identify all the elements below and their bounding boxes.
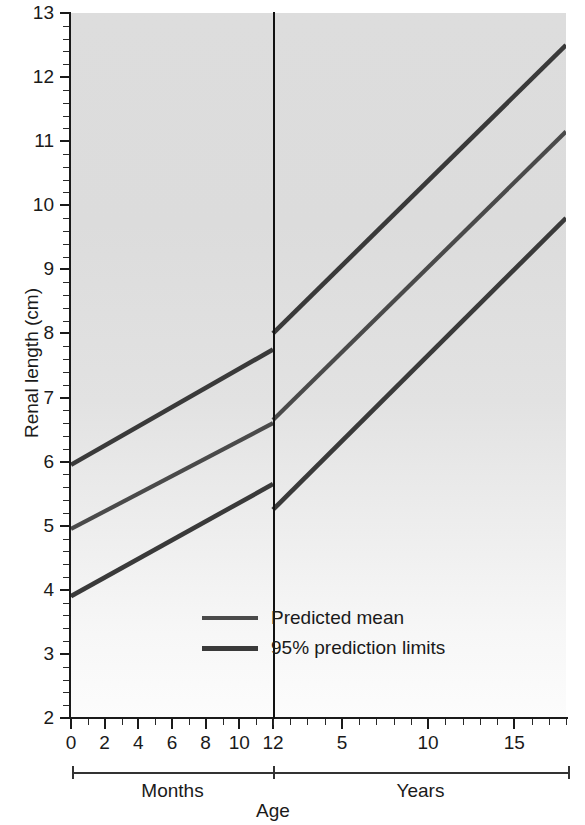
x-tick-minor [532,719,533,725]
y-tick-minor [63,218,69,219]
x-tick-minor [155,719,156,725]
y-tick-minor [63,103,69,104]
y-tick-label: 2 [14,708,54,727]
x-tick-minor [223,719,224,725]
y-tick-minor [63,410,69,411]
bracket-cap [72,766,74,779]
y-tick-label: 12 [14,67,54,86]
x-tick-minor [88,719,89,725]
x-tick-major [70,719,72,729]
y-tick-minor [63,308,69,309]
y-tick-minor [63,192,69,193]
x-tick-major [238,719,240,729]
y-tick-minor [63,39,69,40]
y-tick-minor [63,359,69,360]
x-tick-minor [497,719,498,725]
y-tick-major [60,204,69,206]
x-tick-label: 15 [494,733,534,753]
y-tick-minor [63,51,69,52]
y-tick-minor [63,539,69,540]
y-tick-label: 6 [14,452,54,471]
series-line-mean [273,132,566,420]
y-tick-minor [63,257,69,258]
bracket-cap [568,766,570,779]
y-tick-minor [63,577,69,578]
x-tick-minor [549,719,550,725]
y-tick-label: 10 [14,195,54,214]
y-tick-minor [63,295,69,296]
x-tick-minor [307,719,308,725]
legend-label-predicted-mean: Predicted mean [271,608,404,628]
y-tick-minor [63,180,69,181]
y-tick-minor [63,705,69,706]
x-tick-label: 12 [253,733,293,753]
y-tick-minor [63,513,69,514]
y-tick-label: 3 [14,644,54,663]
y-tick-label: 7 [14,388,54,407]
x-tick-minor [566,719,567,725]
renal-length-growth-chart: Renal length (cm) 1312111098765432 02468… [0,0,585,825]
x-tick-minor [394,719,395,725]
y-tick-minor [63,487,69,488]
series-line-upper-limit [273,45,566,333]
x-tick-minor [290,719,291,725]
y-tick-major [60,525,69,527]
x-tick-minor [273,719,274,725]
y-tick-label: 9 [14,259,54,278]
y-tick-minor [63,641,69,642]
y-tick-minor [63,692,69,693]
y-tick-minor [63,423,69,424]
series-line-lower-limit [71,484,273,596]
x-tick-major [427,719,429,729]
y-tick-minor [63,154,69,155]
x-tick-minor [376,719,377,725]
x-axis-title: Age [193,800,353,822]
x-tick-minor [445,719,446,725]
y-tick-label: 5 [14,516,54,535]
x-tick-major [341,719,343,729]
y-tick-label: 8 [14,323,54,342]
panel-group-label: Months [93,780,253,802]
y-tick-minor [63,551,69,552]
panel-group-label: Years [341,780,501,802]
y-tick-label: 13 [14,3,54,22]
y-tick-major [60,589,69,591]
y-tick-major [60,76,69,78]
y-tick-minor [63,474,69,475]
y-tick-major [60,12,69,14]
x-tick-minor [189,719,190,725]
y-tick-major [60,653,69,655]
x-tick-minor [359,719,360,725]
x-tick-label: 10 [408,733,448,753]
y-tick-minor [63,231,69,232]
x-tick-minor [463,719,464,725]
y-tick-minor [63,667,69,668]
y-tick-major [60,397,69,399]
y-tick-minor [63,449,69,450]
bracket-bar [273,772,568,774]
x-axis-line [69,717,568,719]
y-tick-minor [63,436,69,437]
x-tick-minor [256,719,257,725]
x-tick-minor [480,719,481,725]
y-tick-major [60,140,69,142]
x-tick-major [137,719,139,729]
y-tick-minor [63,64,69,65]
y-tick-minor [63,128,69,129]
x-tick-major [205,719,207,729]
y-tick-minor [63,26,69,27]
series-line-mean [71,423,273,529]
y-tick-label: 11 [14,131,54,150]
y-tick-label: 4 [14,580,54,599]
bracket-bar [72,772,273,774]
y-tick-minor [63,90,69,91]
x-tick-minor [122,719,123,725]
legend-swatch-prediction-limits [202,646,258,651]
y-tick-minor [63,244,69,245]
x-tick-major [513,719,515,729]
x-tick-label: 5 [322,733,362,753]
series-line-lower-limit [273,218,566,510]
y-tick-minor [63,167,69,168]
y-tick-minor [63,385,69,386]
y-tick-minor [63,116,69,117]
